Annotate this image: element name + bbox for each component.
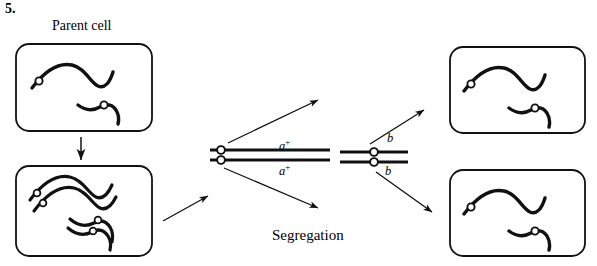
figure-canvas: 5. Parent cell Segregation a+ b a+ a+ b …: [0, 0, 597, 266]
arrow-a-up: [228, 100, 318, 143]
chromosome-pair-b: [340, 148, 408, 166]
arrow-b-up: [370, 110, 424, 144]
replicated-cell-outline: [16, 166, 152, 256]
centromere-b2-replicated: [90, 228, 97, 235]
centromere-b-parent: [100, 101, 107, 108]
centromere-a-daughter-bottom: [467, 203, 474, 210]
chromosome-pair-a: [210, 146, 330, 164]
centromere-a-top: [217, 146, 225, 154]
centromere-a-daughter-top: [467, 80, 474, 87]
centromere-a2-replicated: [40, 200, 47, 207]
daughter-cell-bottom: [450, 170, 585, 256]
centromere-a-bottom: [217, 156, 225, 164]
centromere-a1-replicated: [34, 190, 41, 197]
daughter-cell-bottom-outline: [450, 170, 585, 256]
centromere-b-top: [370, 148, 378, 156]
daughter-cell-top-outline: [450, 47, 585, 133]
parent-cell-outline: [16, 44, 152, 131]
centromere-b1-replicated: [95, 217, 102, 224]
arrow-b-down: [376, 172, 432, 212]
centromere-b-daughter-bottom: [531, 227, 538, 234]
replicated-cell: [16, 166, 152, 256]
arrow-a-down: [224, 168, 318, 208]
parent-cell: [16, 44, 152, 131]
centromere-b-daughter-top: [531, 104, 538, 111]
centromere-a-parent: [35, 77, 42, 84]
daughter-cell-top: [450, 47, 585, 133]
arrow-to-metaphase: [163, 196, 208, 221]
centromere-b-bottom: [370, 158, 378, 166]
